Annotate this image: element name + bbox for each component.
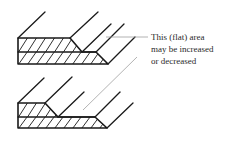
bottom-edge-1 [18,78,44,103]
top-edge-5 [108,37,135,64]
annotation-line-2: may be increased [151,43,213,55]
bottom-edge-3 [58,92,84,117]
top-profile [16,12,135,68]
top-edge-3 [82,24,111,52]
top-profile-outline [18,38,108,64]
bottom-edge-2 [45,77,72,103]
top-edge-4 [96,24,124,52]
diagram-canvas: This (flat) area may be increased or dec… [0,0,225,145]
bottom-edge-4 [95,92,120,117]
leader-lines [83,37,148,110]
top-edge-1 [18,12,45,38]
top-edge-2 [70,12,98,38]
bottom-edge-5 [107,103,133,128]
bottom-profile [16,77,133,132]
annotation-line-3: or decreased [151,55,213,67]
annotation-label: This (flat) area may be increased or dec… [151,31,213,67]
diagram-svg [0,0,225,145]
annotation-line-1: This (flat) area [151,31,213,43]
